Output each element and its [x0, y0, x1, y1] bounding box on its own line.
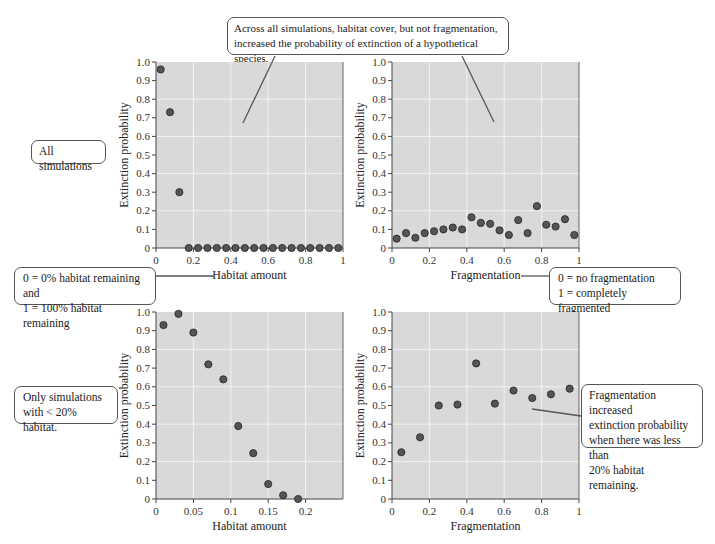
data-point — [421, 230, 428, 237]
plot-area — [392, 62, 579, 248]
data-point — [280, 492, 287, 499]
y-tick-label: 0 — [145, 493, 151, 505]
data-point — [393, 235, 400, 242]
data-point — [241, 244, 248, 251]
data-point — [316, 244, 323, 251]
y-tick-label: 1.0 — [372, 306, 386, 318]
x-axis-label: Fragmentation — [451, 268, 521, 282]
y-tick-label: 0.8 — [136, 343, 150, 355]
y-tick-label: 0 — [381, 493, 387, 505]
data-point — [251, 244, 258, 251]
data-point — [491, 400, 498, 407]
y-tick-label: 0.4 — [136, 418, 150, 430]
data-point — [335, 244, 342, 251]
y-tick-label: 0.4 — [136, 167, 150, 179]
data-point — [416, 434, 423, 441]
data-point — [295, 495, 302, 502]
y-tick-label: 0 — [145, 242, 151, 254]
data-point — [515, 217, 522, 224]
x-tick-label: 0.2 — [187, 254, 201, 266]
y-tick-label: 0.5 — [136, 399, 150, 411]
data-point — [543, 221, 550, 228]
data-point — [505, 231, 512, 238]
data-point — [561, 216, 568, 223]
data-point — [279, 244, 286, 251]
data-point — [175, 310, 182, 317]
y-tick-label: 0.2 — [136, 204, 150, 216]
x-tick-label: 0.4 — [460, 254, 474, 266]
x-axis-label: Habitat amount — [212, 268, 287, 282]
data-point — [440, 226, 447, 233]
data-point — [204, 244, 211, 251]
data-point — [269, 244, 276, 251]
y-axis-label: Extinction probability — [117, 353, 131, 459]
x-tick-label: 0.2 — [299, 505, 313, 517]
y-tick-label: 0.4 — [372, 167, 386, 179]
data-point — [160, 321, 167, 328]
y-tick-label: 0.3 — [136, 186, 150, 198]
x-tick-label: 0.8 — [535, 505, 549, 517]
x-tick-label: 0 — [389, 254, 395, 266]
data-point — [510, 387, 517, 394]
y-tick-label: 0.9 — [372, 74, 386, 86]
data-point — [412, 234, 419, 241]
data-point — [398, 449, 405, 456]
x-tick-label: 0.2 — [423, 254, 437, 266]
y-tick-label: 0.6 — [372, 380, 386, 392]
y-tick-label: 0.2 — [372, 204, 386, 216]
data-point — [220, 376, 227, 383]
data-point — [459, 226, 466, 233]
y-tick-label: 0.5 — [372, 149, 386, 161]
x-axis-label: Habitat amount — [212, 519, 287, 533]
y-axis-label: Extinction probability — [117, 102, 131, 208]
data-point — [235, 422, 242, 429]
y-tick-label: 0.5 — [136, 149, 150, 161]
data-point — [166, 109, 173, 116]
data-point — [524, 230, 531, 237]
data-point — [325, 244, 332, 251]
y-tick-label: 0.8 — [372, 343, 386, 355]
data-point — [288, 244, 295, 251]
y-tick-label: 0.6 — [136, 130, 150, 142]
x-tick-label: 0 — [153, 254, 159, 266]
data-point — [223, 244, 230, 251]
y-tick-label: 0.1 — [136, 474, 150, 486]
y-tick-label: 0.3 — [372, 436, 386, 448]
y-tick-label: 0.8 — [136, 93, 150, 105]
y-tick-label: 0.9 — [136, 324, 150, 336]
y-tick-label: 0.2 — [372, 455, 386, 467]
scatter-chart-1: 00.10.20.30.40.50.60.70.80.91.000.20.40.… — [117, 56, 346, 283]
data-point — [468, 214, 475, 221]
x-tick-label: 0 — [389, 505, 395, 517]
data-point — [265, 480, 272, 487]
y-tick-label: 0.7 — [372, 111, 386, 123]
plot-area — [392, 312, 579, 499]
data-point — [176, 189, 183, 196]
y-tick-label: 0.1 — [372, 474, 386, 486]
data-point — [533, 203, 540, 210]
data-point — [547, 391, 554, 398]
y-tick-label: 1.0 — [136, 56, 150, 68]
y-tick-label: 0.4 — [372, 418, 386, 430]
y-tick-label: 0.6 — [372, 130, 386, 142]
data-point — [260, 244, 267, 251]
y-tick-label: 0.1 — [136, 223, 150, 235]
y-tick-label: 0.6 — [136, 380, 150, 392]
data-point — [213, 244, 220, 251]
scatter-chart-4: 00.10.20.30.40.50.60.70.80.91.000.20.40.… — [353, 306, 582, 534]
charts-canvas: 00.10.20.30.40.50.60.70.80.91.000.20.40.… — [0, 0, 715, 544]
x-tick-label: 0 — [153, 505, 159, 517]
x-axis-label: Fragmentation — [451, 519, 521, 533]
data-point — [566, 385, 573, 392]
x-tick-label: 0.6 — [261, 254, 275, 266]
y-tick-label: 0.7 — [136, 111, 150, 123]
y-tick-label: 0.7 — [372, 362, 386, 374]
data-point — [232, 244, 239, 251]
x-tick-label: 0.4 — [460, 505, 474, 517]
x-tick-label: 0.2 — [423, 505, 437, 517]
data-point — [477, 219, 484, 226]
y-tick-label: 1.0 — [136, 306, 150, 318]
data-point — [552, 223, 559, 230]
plot-area — [156, 62, 343, 248]
x-tick-label: 0.1 — [224, 505, 238, 517]
